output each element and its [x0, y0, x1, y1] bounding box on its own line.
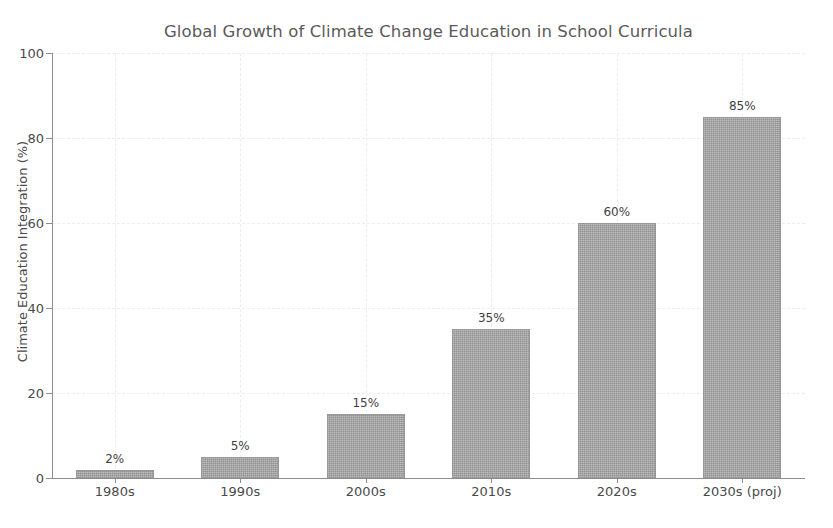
bar-value-label: 85% [729, 99, 756, 113]
bar-value-label: 60% [603, 205, 630, 219]
gridline-horizontal [52, 138, 805, 139]
bar[interactable] [452, 329, 530, 478]
x-axis-tick-mark [742, 478, 743, 483]
x-axis-tick-label: 2010s [471, 484, 511, 499]
y-axis-tick-label: 100 [4, 46, 44, 61]
bar-value-label: 5% [231, 439, 250, 453]
gridline-vertical [240, 53, 241, 478]
y-axis-tick-mark [46, 393, 52, 394]
gridline-horizontal [52, 223, 805, 224]
bar[interactable] [703, 117, 781, 478]
bar[interactable] [201, 457, 279, 478]
bar-value-label: 2% [105, 452, 124, 466]
y-axis-tick-label: 60 [4, 216, 44, 231]
x-axis-tick-mark [366, 478, 367, 483]
x-axis-tick-label: 2020s [597, 484, 637, 499]
chart-figure: Global Growth of Climate Change Educatio… [0, 0, 833, 528]
x-axis-tick-label: 1990s [220, 484, 260, 499]
gridline-horizontal [52, 393, 805, 394]
y-axis-tick-mark [46, 53, 52, 54]
bar-value-label: 35% [478, 311, 505, 325]
bar[interactable] [578, 223, 656, 478]
x-axis-spine [52, 478, 805, 479]
y-axis-tick-label: 40 [4, 301, 44, 316]
x-axis-tick-label: 2030s (proj) [703, 484, 782, 499]
y-axis-tick-mark [46, 223, 52, 224]
y-axis-tick-label: 80 [4, 131, 44, 146]
plot-area: 2%5%15%35%60%85% [52, 53, 805, 478]
gridline-horizontal [52, 53, 805, 54]
y-axis-tick-mark [46, 308, 52, 309]
chart-title: Global Growth of Climate Change Educatio… [52, 22, 805, 41]
x-axis-tick-label: 2000s [346, 484, 386, 499]
bar[interactable] [327, 414, 405, 478]
x-axis-tick-mark [491, 478, 492, 483]
y-axis-tick-mark [46, 478, 52, 479]
y-axis-tick-mark [46, 138, 52, 139]
y-axis-spine [52, 53, 53, 478]
x-axis-tick-mark [240, 478, 241, 483]
gridline-horizontal [52, 308, 805, 309]
x-axis-tick-mark [617, 478, 618, 483]
x-axis-tick-label: 1980s [95, 484, 135, 499]
x-axis-tick-mark [115, 478, 116, 483]
y-axis-tick-label: 0 [4, 471, 44, 486]
bar[interactable] [76, 470, 154, 479]
y-axis-tick-label: 20 [4, 386, 44, 401]
y-axis-tick-labels: 020406080100 [0, 0, 44, 528]
gridline-vertical [115, 53, 116, 478]
bar-value-label: 15% [352, 396, 379, 410]
